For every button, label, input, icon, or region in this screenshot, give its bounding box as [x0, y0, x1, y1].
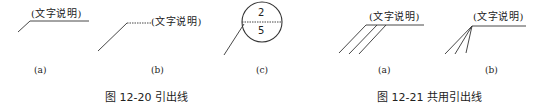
fig-12-21a-parallel-leaders [339, 25, 424, 54]
fig-12-20c-circle-leader [224, 2, 282, 55]
fig-12-20a-leader [18, 21, 89, 32]
fig-12-21a-label: (a) [378, 66, 390, 75]
fig-12-20-caption: 图 12-20 引出线 [105, 92, 188, 103]
fig-12-20a-note: (文字说明) [31, 9, 82, 19]
fig-12-21a-note: (文字说明) [369, 12, 420, 22]
fig-12-20c-upper-number: 2 [258, 8, 264, 18]
fig-12-21-caption: 图 12-21 共用引出线 [377, 92, 482, 103]
fig-12-20b-leader [98, 23, 152, 51]
fig-12-21b-note: (文字说明) [473, 12, 524, 22]
fig-12-20b-note: (文字说明) [151, 17, 202, 27]
fig-12-21b-fan-leaders [445, 26, 526, 54]
fig-12-21b-label: (b) [485, 66, 498, 75]
fig-12-20c-lower-number: 5 [258, 26, 264, 36]
fig-12-20c-label: (c) [256, 66, 268, 75]
fig-12-20a-label: (a) [34, 66, 46, 75]
fig-12-20b-label: (b) [151, 66, 164, 75]
